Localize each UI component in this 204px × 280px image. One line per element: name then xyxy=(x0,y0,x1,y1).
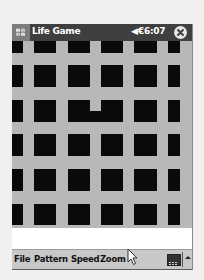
live-cell[interactable] xyxy=(12,41,23,53)
separator xyxy=(182,252,183,267)
live-cell[interactable] xyxy=(168,65,180,87)
live-cell[interactable] xyxy=(34,204,56,225)
start-button[interactable] xyxy=(12,24,30,41)
live-cell[interactable] xyxy=(68,169,90,191)
close-icon xyxy=(174,26,187,39)
live-cell[interactable] xyxy=(68,65,90,87)
live-cell[interactable] xyxy=(12,100,23,122)
live-cell[interactable] xyxy=(12,204,23,225)
live-cell[interactable] xyxy=(134,169,157,191)
live-cell[interactable] xyxy=(34,169,56,191)
live-cell[interactable] xyxy=(134,204,157,225)
clock[interactable]: 6:07 xyxy=(144,26,165,36)
menu-bar: File Pattern Speed Zoom xyxy=(12,249,192,269)
live-cell[interactable] xyxy=(34,41,56,53)
menu-bottom-border xyxy=(12,269,192,270)
menu-file[interactable]: File xyxy=(14,254,30,264)
live-cell[interactable] xyxy=(34,65,56,87)
menu-pattern[interactable]: Pattern xyxy=(34,254,68,264)
live-cell[interactable] xyxy=(134,100,157,122)
live-cell[interactable] xyxy=(12,134,23,156)
live-cell[interactable] xyxy=(34,134,56,156)
life-grid[interactable] xyxy=(12,41,192,228)
device-screen: Life Game ◀€ 6:07 File Pattern Speed Zoo… xyxy=(12,24,193,270)
live-cell[interactable] xyxy=(101,65,123,87)
live-cell[interactable] xyxy=(68,134,90,156)
empty-area xyxy=(12,228,192,249)
live-cell[interactable] xyxy=(101,41,123,53)
keyboard-icon[interactable] xyxy=(167,254,181,266)
windows-flag-icon xyxy=(15,27,26,38)
menu-speed[interactable]: Speed xyxy=(71,254,99,264)
live-cell[interactable] xyxy=(168,41,180,53)
live-cell[interactable] xyxy=(101,134,123,156)
live-cell[interactable] xyxy=(68,41,90,53)
app-title: Life Game xyxy=(32,26,80,36)
live-cell[interactable] xyxy=(68,100,90,122)
live-cell[interactable] xyxy=(134,41,157,53)
sip-up-arrow-icon[interactable] xyxy=(185,256,191,259)
live-cell[interactable] xyxy=(168,169,180,191)
live-cell[interactable] xyxy=(101,100,123,122)
volume-icon[interactable]: ◀€ xyxy=(131,26,144,36)
title-bar: Life Game ◀€ 6:07 xyxy=(12,24,192,41)
close-button[interactable] xyxy=(174,26,187,39)
live-cell[interactable] xyxy=(168,100,180,122)
live-cell[interactable] xyxy=(101,169,123,191)
live-cell[interactable] xyxy=(134,134,157,156)
live-cell[interactable] xyxy=(168,134,180,156)
live-cell[interactable] xyxy=(12,65,23,87)
live-cell[interactable] xyxy=(90,111,101,122)
live-cell[interactable] xyxy=(168,204,180,225)
live-cell[interactable] xyxy=(68,204,90,225)
live-cell[interactable] xyxy=(101,204,123,225)
live-cell[interactable] xyxy=(134,65,157,87)
menu-zoom[interactable]: Zoom xyxy=(100,254,126,264)
live-cell[interactable] xyxy=(34,100,56,122)
live-cell[interactable] xyxy=(12,169,23,191)
mouse-cursor-icon xyxy=(127,248,139,266)
